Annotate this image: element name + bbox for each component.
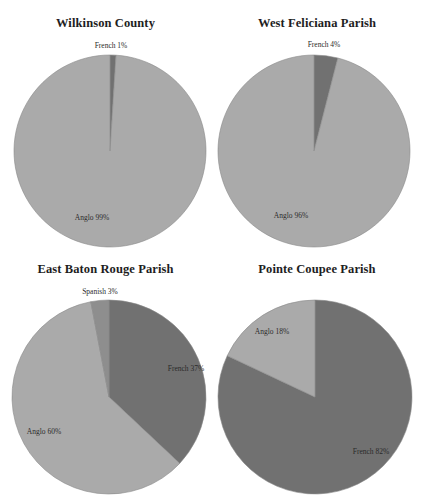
pie-chart: French 4%Anglo 96% (211, 0, 423, 250)
pie-panel-west-feliciana-parish: West Feliciana Parish French 4%Anglo 96% (211, 0, 423, 250)
slice-label-anglo: Anglo 60% (27, 427, 61, 436)
pie-chart: French 37%Anglo 60%Spanish 3% (0, 255, 211, 497)
slice-label-french: French 1% (95, 41, 128, 50)
slice-label-anglo: Anglo 96% (274, 211, 308, 220)
slice-label-anglo: Anglo 99% (75, 213, 109, 222)
slice-label-anglo: Anglo 18% (255, 327, 289, 336)
slice-label-french: French 4% (308, 40, 341, 49)
slice-label-french: French 37% (168, 364, 204, 373)
slice-label-spanish: Spanish 3% (82, 287, 118, 296)
pie-chart: French 82%Anglo 18% (211, 255, 423, 497)
pie-slice-anglo (14, 55, 206, 247)
pie-panel-wilkinson-county: Wilkinson County French 1%Anglo 99% (0, 0, 211, 250)
pie-slice-anglo (218, 55, 410, 247)
pie-panel-pointe-coupee-parish: Pointe Coupee Parish French 82%Anglo 18% (211, 255, 423, 497)
pie-chart: French 1%Anglo 99% (0, 0, 211, 250)
slice-label-french: French 82% (353, 447, 389, 456)
pie-panel-east-baton-rouge-parish: East Baton Rouge Parish French 37%Anglo … (0, 255, 211, 497)
